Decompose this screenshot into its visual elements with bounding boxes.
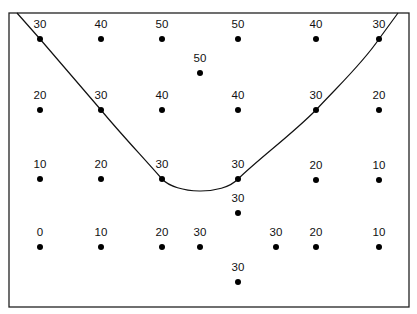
data-point: 50 xyxy=(156,18,169,42)
point-value-label: 50 xyxy=(156,18,169,30)
point-value-label: 40 xyxy=(310,18,323,30)
data-point: 10 xyxy=(95,226,108,250)
point-dot xyxy=(235,210,241,216)
point-value-label: 30 xyxy=(232,261,245,273)
point-dot xyxy=(159,107,165,113)
diagram-frame xyxy=(9,13,409,307)
data-point: 30 xyxy=(373,18,386,42)
point-value-label: 50 xyxy=(232,18,245,30)
point-dot xyxy=(376,107,382,113)
point-dot xyxy=(98,36,104,42)
point-value-label: 20 xyxy=(95,158,108,170)
point-dot xyxy=(98,244,104,250)
data-point: 20 xyxy=(310,226,323,250)
point-value-label: 10 xyxy=(373,226,386,238)
data-point: 10 xyxy=(373,159,386,183)
data-point: 50 xyxy=(194,52,207,76)
data-point: 30 xyxy=(194,226,207,250)
point-value-label: 30 xyxy=(373,18,386,30)
point-value-label: 30 xyxy=(232,158,245,170)
data-point: 50 xyxy=(232,18,245,42)
point-dot xyxy=(98,176,104,182)
data-point: 10 xyxy=(373,226,386,250)
point-value-label: 40 xyxy=(156,89,169,101)
point-value-label: 10 xyxy=(373,159,386,171)
data-point: 20 xyxy=(156,226,169,250)
point-dot xyxy=(98,107,104,113)
point-dot xyxy=(37,244,43,250)
point-value-label: 20 xyxy=(373,89,386,101)
point-dot xyxy=(376,177,382,183)
point-value-label: 50 xyxy=(194,52,207,64)
point-value-label: 20 xyxy=(310,159,323,171)
data-point: 30 xyxy=(232,261,245,285)
point-dot xyxy=(235,279,241,285)
point-dot xyxy=(37,176,43,182)
point-dot xyxy=(235,107,241,113)
point-value-label: 20 xyxy=(310,226,323,238)
data-point: 30 xyxy=(232,158,245,182)
point-dot xyxy=(197,70,203,76)
point-dot xyxy=(159,36,165,42)
point-value-label: 0 xyxy=(37,226,43,238)
data-point: 40 xyxy=(156,89,169,113)
point-dot xyxy=(159,244,165,250)
point-dot xyxy=(37,36,43,42)
point-dot xyxy=(235,36,241,42)
point-value-label: 30 xyxy=(194,226,207,238)
data-points: 3040505040305020304040302010203030201030… xyxy=(34,18,386,285)
point-dot xyxy=(313,177,319,183)
data-point: 30 xyxy=(156,158,169,182)
data-point: 40 xyxy=(310,18,323,42)
contour-line-30 xyxy=(17,13,398,191)
point-value-label: 30 xyxy=(270,226,283,238)
point-dot xyxy=(313,244,319,250)
data-point: 20 xyxy=(310,159,323,183)
point-value-label: 40 xyxy=(95,18,108,30)
point-dot xyxy=(313,107,319,113)
data-point: 40 xyxy=(232,89,245,113)
point-value-label: 30 xyxy=(232,192,245,204)
point-value-label: 40 xyxy=(232,89,245,101)
data-point: 30 xyxy=(34,18,47,42)
contour-diagram: 3040505040305020304040302010203030201030… xyxy=(0,0,417,314)
data-point: 30 xyxy=(95,89,108,113)
point-value-label: 10 xyxy=(95,226,108,238)
data-point: 30 xyxy=(232,192,245,216)
point-value-label: 30 xyxy=(95,89,108,101)
point-value-label: 30 xyxy=(310,89,323,101)
point-value-label: 30 xyxy=(156,158,169,170)
data-point: 30 xyxy=(270,226,283,250)
point-dot xyxy=(313,36,319,42)
data-point: 30 xyxy=(310,89,323,113)
point-dot xyxy=(273,244,279,250)
point-dot xyxy=(235,176,241,182)
data-point: 20 xyxy=(34,89,47,113)
data-point: 0 xyxy=(37,226,43,250)
point-dot xyxy=(37,107,43,113)
data-point: 20 xyxy=(95,158,108,182)
point-value-label: 10 xyxy=(34,158,47,170)
point-value-label: 20 xyxy=(156,226,169,238)
point-value-label: 20 xyxy=(34,89,47,101)
point-dot xyxy=(197,244,203,250)
point-dot xyxy=(376,36,382,42)
data-point: 10 xyxy=(34,158,47,182)
point-dot xyxy=(159,176,165,182)
point-dot xyxy=(376,244,382,250)
data-point: 20 xyxy=(373,89,386,113)
data-point: 40 xyxy=(95,18,108,42)
point-value-label: 30 xyxy=(34,18,47,30)
